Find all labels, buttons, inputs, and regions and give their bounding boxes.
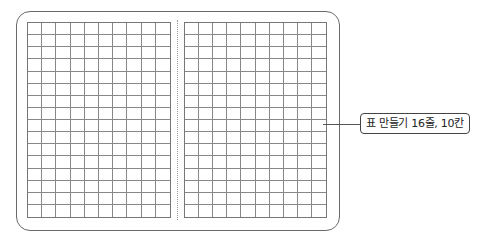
grid-cell [42,108,56,120]
grid-cell [71,144,85,156]
grid-cell [185,144,199,156]
grid-cell [113,132,127,144]
grid-cell [298,84,312,96]
grid-cell [312,181,326,193]
grid-cell [156,144,170,156]
grid-cell [28,84,42,96]
grid-cell [199,59,213,71]
grid-cell [142,59,156,71]
grid-cell [312,169,326,181]
grid-cell [127,47,141,59]
grid-cell [298,205,312,217]
grid-cell [28,35,42,47]
grid-cell [28,47,42,59]
grid-cell [284,132,298,144]
grid-cell [241,193,255,205]
grid-cell [312,59,326,71]
grid-cell [142,205,156,217]
grid-cell [71,181,85,193]
grid-cell [127,181,141,193]
grid-cell [298,108,312,120]
grid-cell [270,156,284,168]
grid-cell [28,59,42,71]
grid-cell [270,120,284,132]
grid-cell [185,35,199,47]
grid-cell [213,144,227,156]
grid-cell [241,156,255,168]
grid-cell [298,156,312,168]
grid-cell [142,23,156,35]
grid-cell [113,144,127,156]
grid-cell [185,84,199,96]
grid-cell [199,23,213,35]
grid-cell [298,181,312,193]
grid-cell [227,96,241,108]
grid-cell [312,144,326,156]
grid-cell [99,193,113,205]
grid-cell [213,169,227,181]
grid-cell [28,120,42,132]
grid-cell [142,169,156,181]
grid-cell [42,84,56,96]
grid-cell [28,181,42,193]
grid-cell [156,132,170,144]
grid-cell [42,205,56,217]
grid-cell [298,144,312,156]
grid-cell [56,47,70,59]
grid-cell [199,35,213,47]
grid-cell [85,120,99,132]
grid-cell [185,181,199,193]
grid-cell [142,47,156,59]
grid-cell [56,59,70,71]
grid-cell [256,72,270,84]
grid-cell [227,205,241,217]
grid-cell [113,96,127,108]
grid-cell [199,193,213,205]
grid-cell [284,181,298,193]
grid-cell [42,193,56,205]
grid-cell [284,23,298,35]
grid-cell [42,72,56,84]
grid-cell [199,96,213,108]
grid-cell [113,169,127,181]
grid-cell [127,96,141,108]
grid-cell [312,96,326,108]
grid-cell [42,169,56,181]
grid-cell [113,108,127,120]
grid-cell [127,72,141,84]
grid-cell [42,181,56,193]
grid-cell [142,35,156,47]
grid-cell [142,144,156,156]
grid-cell [99,120,113,132]
grid-cell [256,84,270,96]
grid-cell [312,84,326,96]
grid-cell [213,47,227,59]
grid-cell [298,35,312,47]
grid-cell [241,84,255,96]
grid-cell [213,193,227,205]
grid-cell [113,72,127,84]
grid-cell [213,108,227,120]
grid-cell [298,59,312,71]
grid-cell [227,193,241,205]
grid-cell [113,193,127,205]
grid-cell [199,72,213,84]
grid-cell [298,120,312,132]
grid-cell [56,205,70,217]
grid-cell [213,156,227,168]
grid-cell [256,144,270,156]
grid-cell [113,59,127,71]
grid-cell [127,193,141,205]
grid-cell [28,23,42,35]
grid-cell [142,132,156,144]
grid-cell [270,181,284,193]
grid-cell [99,35,113,47]
grid-cell [56,23,70,35]
grid-cell [156,59,170,71]
grid-cell [127,59,141,71]
grid-cell [85,108,99,120]
grid-cell [56,132,70,144]
grid-cell [28,96,42,108]
grid-cell [156,181,170,193]
grid-cell [284,47,298,59]
